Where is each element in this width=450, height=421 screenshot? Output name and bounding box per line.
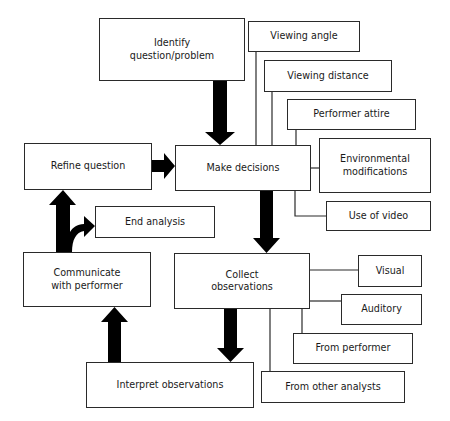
node-from-other-analysts: From other analysts bbox=[261, 371, 405, 403]
node-performer-attire: Performer attire bbox=[287, 99, 416, 130]
node-environmental-modifications: Environmentalmodifications bbox=[319, 138, 431, 193]
node-label: with performer bbox=[51, 280, 123, 291]
node-refine-question: Refine question bbox=[24, 143, 152, 190]
node-label: Viewing angle bbox=[270, 30, 337, 42]
arrow-decisions-to-collect bbox=[253, 191, 280, 253]
node-label: From performer bbox=[316, 342, 391, 354]
node-label: Identify bbox=[154, 37, 190, 48]
node-viewing-angle: Viewing angle bbox=[248, 21, 360, 52]
node-identify-question: Identifyquestion/problem bbox=[99, 18, 245, 81]
node-label: observations bbox=[211, 281, 273, 292]
node-label: From other analysts bbox=[285, 381, 380, 393]
node-label: modifications bbox=[343, 166, 408, 177]
connector-use-of-video bbox=[295, 191, 326, 216]
node-viewing-distance: Viewing distance bbox=[264, 60, 392, 92]
node-label: Use of video bbox=[349, 210, 408, 222]
node-communicate: Communicatewith performer bbox=[23, 252, 151, 307]
arrow-refine-to-decisions bbox=[152, 153, 175, 179]
node-label: Environmental bbox=[340, 153, 410, 164]
arrow-interpret-to-communicate bbox=[101, 307, 128, 362]
node-make-decisions: Make decisions bbox=[175, 145, 311, 191]
node-label: question/problem bbox=[130, 50, 214, 61]
arrow-collect-to-interpret bbox=[217, 309, 244, 362]
node-label: Collect bbox=[226, 269, 259, 280]
arrow-communicate-to-end-analysis bbox=[66, 216, 95, 252]
node-visual: Visual bbox=[358, 255, 422, 287]
node-end-analysis: End analysis bbox=[95, 206, 215, 238]
node-auditory: Auditory bbox=[341, 294, 422, 325]
node-label: Communicate bbox=[54, 267, 121, 278]
node-label: Make decisions bbox=[207, 162, 280, 174]
node-from-performer: From performer bbox=[293, 333, 413, 364]
node-label: Visual bbox=[376, 265, 405, 277]
node-label: Performer attire bbox=[313, 108, 389, 120]
node-label: Viewing distance bbox=[287, 70, 368, 82]
arrow-identify-to-decisions bbox=[205, 81, 235, 145]
node-label: Interpret observations bbox=[117, 379, 224, 391]
node-interpret-observations: Interpret observations bbox=[86, 362, 254, 408]
node-label: Auditory bbox=[361, 303, 402, 315]
node-collect-observations: Collectobservations bbox=[174, 253, 310, 309]
node-label: End analysis bbox=[125, 216, 185, 228]
node-label: Refine question bbox=[51, 160, 126, 172]
node-use-of-video: Use of video bbox=[326, 201, 431, 231]
